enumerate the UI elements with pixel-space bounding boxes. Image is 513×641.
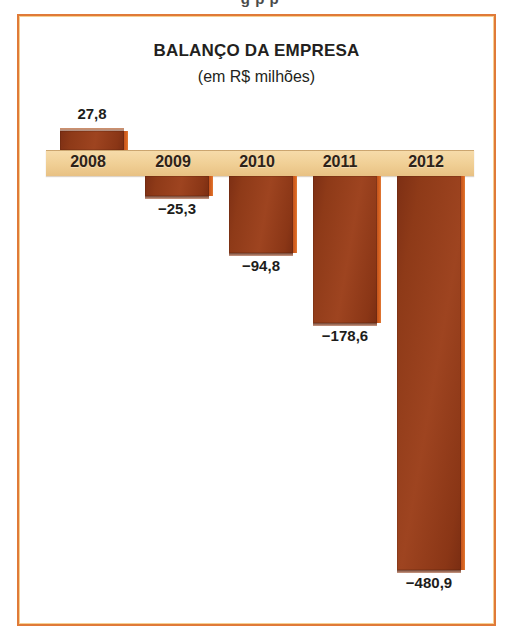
axis-label-2011: 2011 [305, 153, 375, 171]
category-axis-band: 2008 2009 2010 2011 2012 [46, 150, 474, 176]
axis-label-2008: 2008 [53, 153, 123, 171]
bar-value-2011: −178,6 [297, 327, 393, 344]
axis-label-2012: 2012 [391, 153, 461, 171]
bar-value-2008: 27,8 [44, 105, 140, 122]
axis-label-2010: 2010 [222, 153, 292, 171]
bar-2009 [145, 176, 209, 196]
bar-value-2010: −94,8 [213, 257, 309, 274]
chart-frame: BALANÇO DA EMPRESA (em R$ milhões) 2008 … [17, 14, 496, 626]
bar-2008 [60, 131, 124, 150]
page-artifact-text: g p p [120, 0, 400, 8]
bar-2010 [229, 176, 293, 253]
chart-figure: g p p BALANÇO DA EMPRESA (em R$ milhões)… [0, 0, 513, 641]
bar-value-2009: −25,3 [129, 200, 225, 217]
bar-2012 [397, 176, 461, 570]
bar-2011 [313, 176, 377, 323]
axis-label-2009: 2009 [138, 153, 208, 171]
bar-value-2012: −480,9 [381, 574, 477, 591]
plot-area: 2008 2009 2010 2011 2012 27,8 −25,3 −94,… [19, 16, 494, 624]
